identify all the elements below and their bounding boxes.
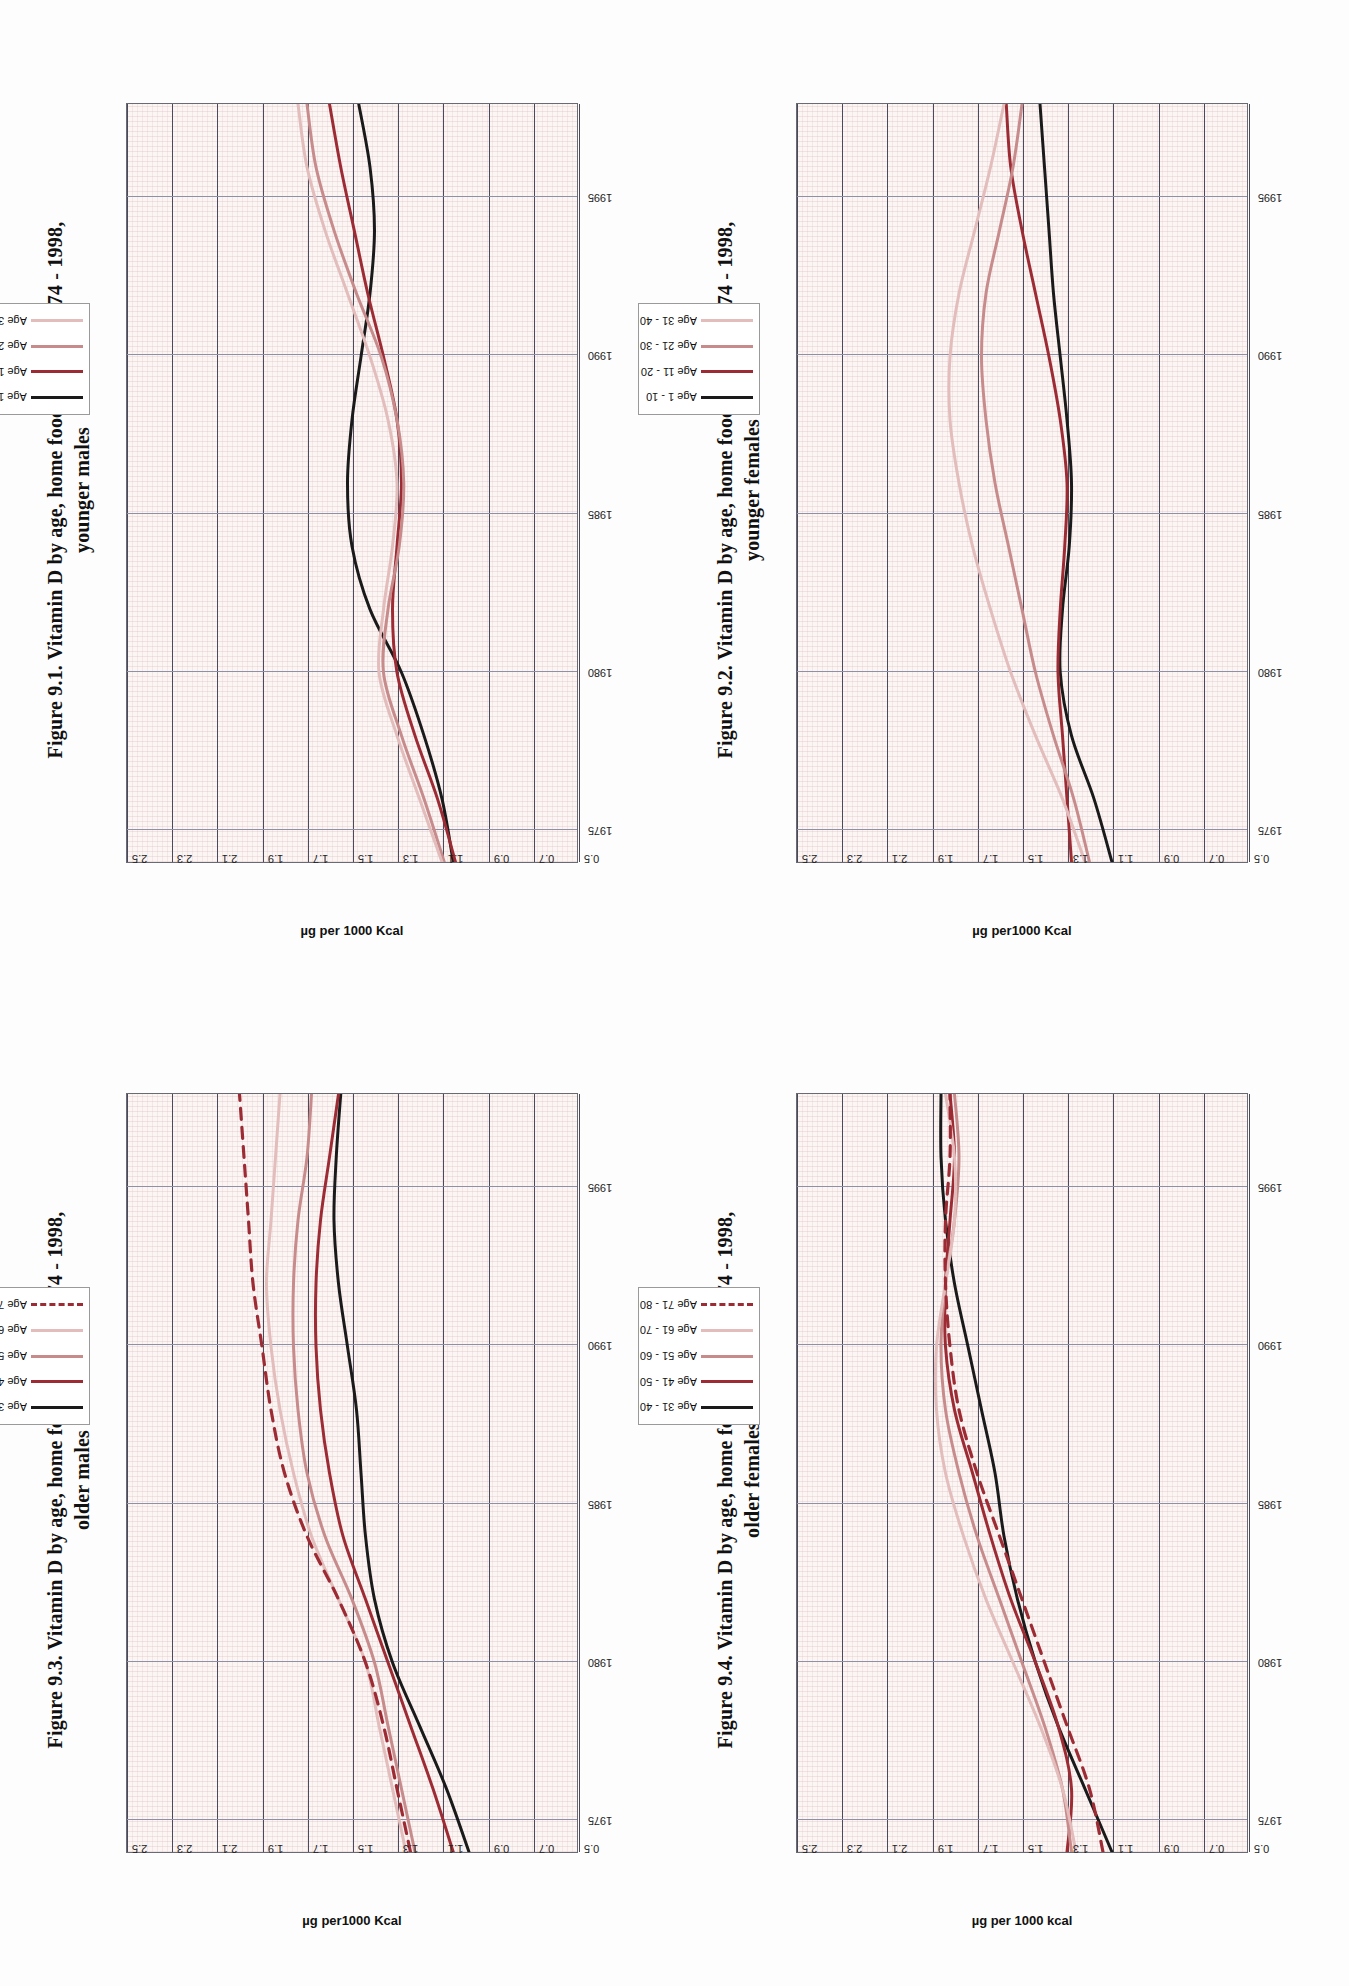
y-axis-tick-label: 0.9: [488, 863, 503, 875]
y-axis-tick-label: 1.1: [442, 863, 457, 875]
legend-item: Age 1 - 10: [645, 385, 753, 411]
y-axis-tick-label: 1.5: [352, 1853, 367, 1865]
figure-9-4-rotated: Figure 9.4. Vitamin D by age, home food …: [710, 1015, 1310, 1945]
figure-9-2-y-axis-label: µg per1000 Kcal: [796, 921, 1248, 941]
y-axis-tick-label: 0.9: [488, 1853, 503, 1865]
y-axis-tick-label: 0.9: [1158, 863, 1173, 875]
figure-9-1-legend: Age 1 - 10 Age 11 - 20 Age 21 - 30 Age 3…: [0, 303, 90, 415]
figure-9-3-y-axis-label: µg per1000 Kcal: [126, 1911, 578, 1931]
legend-label: Age 31 - 40: [0, 1401, 27, 1413]
figure-9-1-title: Figure 9.1. Vitamin D by age, home food …: [42, 25, 96, 955]
legend-swatch-black: [701, 1406, 753, 1409]
legend-swatch-black: [31, 396, 83, 399]
y-axis-tick-label: 1.3: [1067, 863, 1082, 875]
legend-item: Age 1 - 10: [0, 385, 83, 411]
legend-swatch-dashed-red: [31, 1303, 83, 1306]
figure-9-1-subtitle: younger males: [69, 25, 96, 955]
figure-9-1-y-axis-label: µg per 1000 Kcal: [126, 921, 578, 941]
legend-item: Age 41 - 50: [645, 1369, 753, 1395]
figure-9-2-plot: [796, 103, 1248, 863]
series-line: [240, 1094, 411, 1852]
legend-swatch-light-rose: [701, 319, 753, 322]
legend-label: Age 21 - 30: [0, 340, 27, 352]
y-axis-tick-label: 1.9: [932, 1853, 947, 1865]
y-axis-tick-label: 2.1: [886, 863, 901, 875]
legend-item: Age 41 - 50: [0, 1369, 83, 1395]
y-axis-tick-label: 1.5: [1022, 863, 1037, 875]
series-line: [293, 1094, 415, 1852]
legend-swatch-mid-rose: [31, 345, 83, 348]
series-line: [982, 104, 1090, 862]
x-axis-tick-label: 1980: [1244, 661, 1268, 673]
legend-swatch-dark-red: [31, 370, 83, 373]
y-axis-tick-label: 0.7: [533, 863, 548, 875]
legend-label: Age 1 - 10: [0, 391, 27, 403]
y-axis-tick-label: 2.3: [841, 1853, 856, 1865]
x-axis-tick-label: 1975: [574, 1809, 598, 1821]
gridline-value: [1249, 1094, 1250, 1852]
y-axis-tick-label: 1.9: [932, 863, 947, 875]
legend-label: Age 1 - 10: [646, 391, 697, 403]
legend-item: Age 31 - 40: [645, 308, 753, 334]
legend-item: Age 31 - 40: [0, 1394, 83, 1420]
legend-swatch-dark-red: [701, 1380, 753, 1383]
y-axis-tick-label: 1.1: [1112, 863, 1127, 875]
x-axis-tick-label: 1985: [1244, 1493, 1268, 1505]
figure-9-2-legend: Age 1 - 10 Age 11 - 20 Age 21 - 30 Age 3…: [638, 303, 760, 415]
legend-label: Age 61 - 70: [640, 1324, 697, 1336]
figure-9-3-title: Figure 9.3. Vitamin D by age, home food …: [42, 1015, 96, 1945]
legend-item: Age 61 - 70: [645, 1318, 753, 1344]
figure-9-3-rotated: Figure 9.3. Vitamin D by age, home food …: [40, 1015, 640, 1945]
legend-label: Age 31 - 40: [0, 315, 27, 327]
y-axis-tick-label: 1.9: [262, 863, 277, 875]
figure-9-2-rotated: Figure 9.2. Vitamin D by age, home food …: [710, 25, 1310, 955]
y-axis-tick-label: 2.1: [886, 1853, 901, 1865]
gridline-value: [1249, 104, 1250, 862]
x-axis-tick-label: 1975: [1244, 1809, 1268, 1821]
series-line: [935, 1094, 1076, 1852]
x-axis-tick-label: 1990: [1244, 344, 1268, 356]
series-line: [334, 1094, 469, 1852]
y-axis-tick-label: 0.5: [578, 863, 593, 875]
x-axis-tick-label: 1975: [574, 819, 598, 831]
series-layer: [127, 104, 577, 862]
figure-9-4-y-axis-label: µg per 1000 kcal: [796, 1911, 1248, 1931]
x-axis-tick-label: 1980: [574, 661, 598, 673]
figure-9-3-subtitle: older males: [69, 1015, 96, 1945]
y-axis-tick-label: 0.9: [1158, 1853, 1173, 1865]
series-line: [941, 1094, 1072, 1852]
figure-9-4-legend: Age 31 - 40 Age 41 - 50 Age 51 - 60 Age …: [638, 1287, 760, 1425]
x-axis-tick-label: 1990: [574, 1334, 598, 1346]
y-axis-tick-label: 2.3: [841, 863, 856, 875]
y-axis-tick-label: 1.3: [397, 863, 412, 875]
series-line: [1040, 104, 1112, 862]
y-axis-tick-label: 0.5: [578, 1853, 593, 1865]
figure-9-1-rotated: Figure 9.1. Vitamin D by age, home food …: [40, 25, 640, 955]
legend-item: Age 71 - 80: [0, 1292, 83, 1318]
legend-label: Age 71 - 80: [0, 1299, 27, 1311]
x-axis-tick-label: 1990: [1244, 1334, 1268, 1346]
legend-label: Age 61 - 70: [0, 1324, 27, 1336]
figure-9-2-title: Figure 9.2. Vitamin D by age, home food …: [712, 25, 766, 955]
y-axis-tick-label: 2.1: [216, 863, 231, 875]
legend-item: Age 11 - 20: [645, 359, 753, 385]
legend-item: Age 31 - 40: [0, 308, 83, 334]
x-axis-tick-label: 1980: [574, 1651, 598, 1663]
gridline-value: [579, 1094, 580, 1852]
legend-swatch-dark-red: [701, 370, 753, 373]
legend-label: Age 11 - 20: [0, 366, 27, 378]
figure-9-4-plot: [796, 1093, 1248, 1853]
legend-item: Age 21 - 30: [645, 334, 753, 360]
series-layer: [797, 1094, 1247, 1852]
figure-9-1: Figure 9.1. Vitamin D by age, home food …: [20, 10, 660, 970]
figure-9-2: Figure 9.2. Vitamin D by age, home food …: [690, 10, 1330, 970]
legend-swatch-light-rose: [701, 1329, 753, 1332]
legend-label: Age 11 - 20: [641, 366, 697, 378]
series-layer: [797, 104, 1247, 862]
figure-9-4-title: Figure 9.4. Vitamin D by age, home food …: [712, 1015, 766, 1945]
legend-item: Age 31 - 40: [645, 1394, 753, 1420]
legend-item: Age 21 - 30: [0, 334, 83, 360]
y-axis-tick-label: 0.7: [1203, 863, 1218, 875]
legend-swatch-mid-rose: [701, 345, 753, 348]
legend-swatch-mid-rose: [701, 1355, 753, 1358]
